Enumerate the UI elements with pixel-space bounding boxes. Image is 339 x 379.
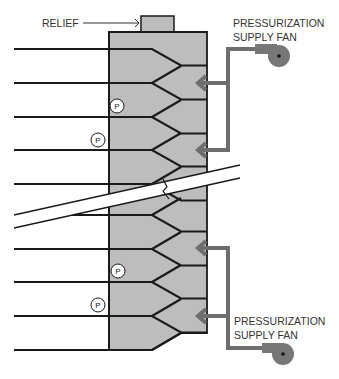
svg-text:P: P <box>95 301 100 310</box>
pressure-sensor: P <box>91 298 105 312</box>
svg-text:P: P <box>115 267 120 276</box>
svg-text:P: P <box>95 136 100 145</box>
relief-vent <box>141 16 174 32</box>
lower-fan-label-line2: SUPPLY FAN <box>234 329 298 341</box>
pressure-sensor: P <box>111 264 125 278</box>
stairwell-pressurization-diagram: P P P P RELIEF PRESSURIZATION SUPPLY FAN… <box>0 0 339 379</box>
relief-arrow-icon <box>83 19 139 27</box>
lower-supply-fan-icon <box>262 343 294 365</box>
pressure-sensor: P <box>91 133 105 147</box>
upper-supply-fan-icon <box>255 44 290 67</box>
upper-fan-label-line2: SUPPLY FAN <box>233 31 297 43</box>
pressure-sensor: P <box>110 99 124 113</box>
relief-label: RELIEF <box>42 17 79 29</box>
lower-fan-label-line1: PRESSURIZATION <box>234 315 325 327</box>
svg-text:P: P <box>114 102 119 111</box>
upper-fan-label-line1: PRESSURIZATION <box>233 17 324 29</box>
